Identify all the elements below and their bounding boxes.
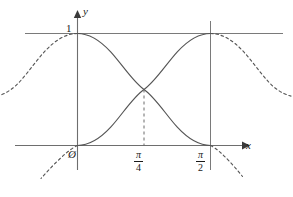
origin-label: Ø (68, 149, 76, 160)
fraction-denominator: 2 (196, 163, 205, 174)
y-axis-label: y (83, 6, 88, 17)
x-tick-label-pi-over-4: π 4 (134, 150, 143, 174)
fraction-numerator: π (196, 150, 205, 161)
curve-cos-squared-extension-left (0, 34, 78, 96)
y-tick-label-one: 1 (66, 23, 72, 34)
curve-extension-lower-right (211, 146, 243, 177)
fraction-denominator: 4 (134, 163, 143, 174)
fraction-numerator: π (134, 150, 143, 161)
fraction-pi-over-2: π 2 (196, 150, 205, 173)
x-tick-label-pi-over-2: π 2 (196, 150, 205, 174)
curve-sin-squared-extension-right (211, 34, 292, 97)
graph-canvas (0, 0, 293, 197)
figure-container: y x 1 Ø π 4 π 2 (0, 0, 293, 197)
fraction-pi-over-4: π 4 (134, 150, 143, 173)
x-axis-label: x (246, 140, 251, 151)
y-axis-arrowhead (74, 10, 81, 18)
